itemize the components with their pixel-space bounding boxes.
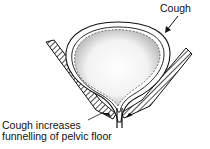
cough-label: Cough: [160, 3, 191, 14]
caption-pointer: [88, 112, 104, 120]
cough-arrow: [165, 16, 178, 33]
caption-line-2: funnelling of pelvic floor: [2, 131, 112, 142]
caption: Cough increases funnelling of pelvic flo…: [2, 120, 112, 142]
